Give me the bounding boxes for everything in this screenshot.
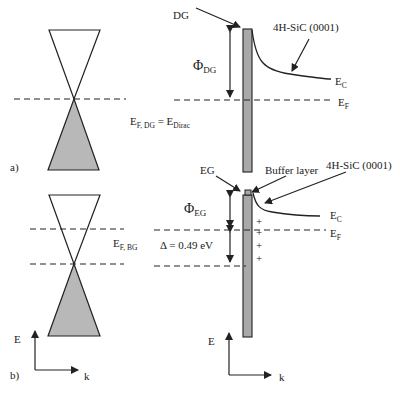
delta-label: Δ = 0.49 eV (160, 240, 213, 251)
positive-charge: + (256, 253, 262, 264)
buffer-layer-label: Buffer layer (265, 165, 318, 176)
ef-label-b: EF (330, 228, 341, 242)
conduction-cone-a (49, 30, 100, 99)
valence-cone-a (48, 99, 99, 170)
fermi-dirac-label-a: EF, DG = EDirac (130, 116, 190, 130)
ec-label-a: EC (335, 76, 347, 90)
sic-pointer-arrow-b (265, 172, 346, 203)
sic-label-a: 4H-SiC (0001) (273, 22, 339, 33)
ec-label-b: EC (330, 210, 342, 224)
sic-pointer-arrow-a (292, 39, 309, 71)
phi-eg-label: ΦEG (184, 202, 206, 218)
panel-b-tag: b) (10, 370, 19, 381)
ef-label-a: EF (338, 97, 349, 111)
buffer-layer-block (245, 190, 251, 195)
panel-a-tag: a) (10, 162, 19, 173)
conduction-band-curve-a (252, 30, 331, 79)
dirac-cone-a (48, 30, 100, 170)
dg-pointer-arrow (196, 8, 240, 27)
phi-dg-label: ΦDG (193, 59, 216, 75)
positive-charge: + (256, 227, 262, 238)
dirac-cone-b (48, 195, 100, 336)
sic-label-b: 4H-SiC (0001) (326, 160, 392, 171)
dg-label: DG (173, 10, 189, 21)
e-axis-label-left: E (14, 334, 21, 345)
eg-pointer-arrow (216, 176, 240, 191)
k-axis-label-left: k (84, 371, 90, 382)
fermi-bg-label: EF, BG (113, 238, 137, 252)
positive-charge: + (256, 240, 262, 251)
k-axis-label-right: k (279, 372, 285, 383)
eg-label: EG (200, 165, 215, 176)
conduction-band-curve-b (253, 193, 320, 216)
buffer-pointer-arrow (252, 176, 286, 192)
valence-cone-b (48, 264, 100, 336)
e-axis-label-right: E (208, 336, 215, 347)
